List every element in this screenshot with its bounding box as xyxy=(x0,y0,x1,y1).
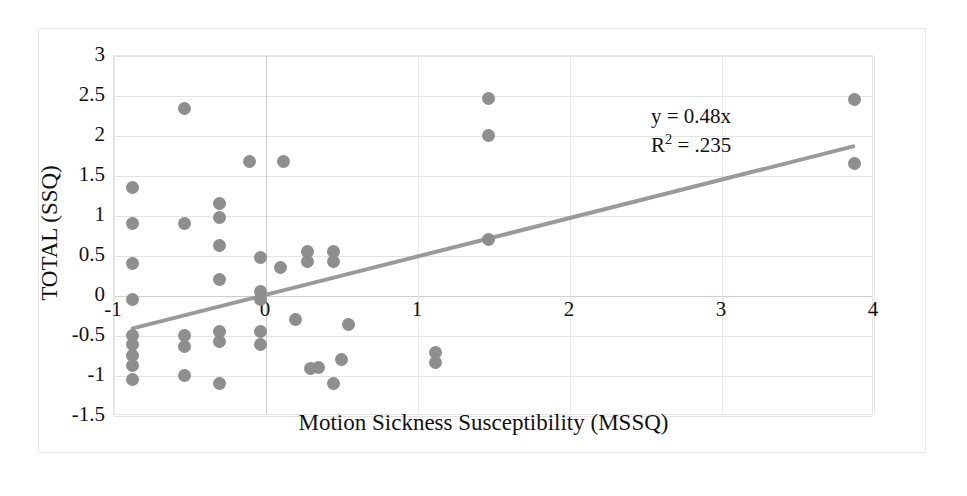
data-point xyxy=(327,255,340,268)
y-axis-tick-label: -0.5 xyxy=(1,324,105,345)
x-axis-tick-label: -1 xyxy=(73,299,153,320)
data-point xyxy=(848,93,861,106)
data-point xyxy=(482,92,495,105)
gridline-horizontal xyxy=(114,336,872,337)
y-axis-tick-label: 2 xyxy=(1,124,105,145)
data-point xyxy=(126,293,139,306)
x-axis-tick-label: 3 xyxy=(681,299,761,320)
data-point xyxy=(254,338,267,351)
data-point xyxy=(213,197,226,210)
y-axis-tick-label: 3 xyxy=(1,44,105,65)
y-axis-tick-label: -1.5 xyxy=(1,404,105,425)
scatter-plot-figure: TOTAL (SSQ) Motion Sickness Susceptibili… xyxy=(0,0,967,496)
x-axis-title: Motion Sickness Susceptibility (MSSQ) xyxy=(0,410,967,436)
y-axis-tick-label: 1 xyxy=(1,204,105,225)
x-axis-tick-label: 4 xyxy=(833,299,913,320)
y-axis-title: TOTAL (SSQ) xyxy=(37,123,63,343)
gridline-horizontal xyxy=(114,216,872,217)
y-axis-tick-label: -1 xyxy=(1,364,105,385)
regression-annotation: y = 0.48x R2 = .235 xyxy=(651,103,731,159)
data-point xyxy=(126,217,139,230)
data-point xyxy=(301,255,314,268)
data-point xyxy=(213,239,226,252)
y-axis-tick-label: 1.5 xyxy=(1,164,105,185)
gridline-horizontal xyxy=(114,376,872,377)
data-point xyxy=(254,251,267,264)
data-point xyxy=(126,373,139,386)
data-point xyxy=(213,273,226,286)
gridline-horizontal xyxy=(114,256,872,257)
data-point xyxy=(178,102,191,115)
r-squared-symbol: R xyxy=(651,133,665,157)
data-point xyxy=(178,369,191,382)
data-point xyxy=(482,233,495,246)
gridline-horizontal xyxy=(114,296,872,297)
y-axis-tick-label: 2.5 xyxy=(1,84,105,105)
gridline-horizontal xyxy=(114,176,872,177)
data-point xyxy=(327,377,340,390)
x-axis-tick-label: 2 xyxy=(529,299,609,320)
gridline-vertical xyxy=(114,56,115,414)
gridline-vertical xyxy=(418,56,419,414)
data-point xyxy=(126,257,139,270)
regression-equation: y = 0.48x xyxy=(651,103,731,130)
x-axis-tick-label: 1 xyxy=(377,299,457,320)
data-point xyxy=(213,377,226,390)
data-point xyxy=(277,155,290,168)
y-axis-tick-label: 0.5 xyxy=(1,244,105,265)
gridline-vertical xyxy=(570,56,571,414)
data-point xyxy=(213,335,226,348)
data-point xyxy=(178,217,191,230)
data-point xyxy=(254,325,267,338)
r-squared: R2 = .235 xyxy=(651,130,731,159)
data-point xyxy=(482,129,495,142)
data-point xyxy=(289,313,302,326)
gridline-horizontal xyxy=(114,56,872,57)
gridline-vertical xyxy=(266,56,267,414)
data-point xyxy=(126,181,139,194)
data-point xyxy=(848,157,861,170)
gridline-vertical xyxy=(874,56,875,414)
data-point xyxy=(178,340,191,353)
data-point xyxy=(274,261,287,274)
data-point xyxy=(213,211,226,224)
data-point xyxy=(335,353,348,366)
data-point xyxy=(429,356,442,369)
r-squared-value: = .235 xyxy=(672,133,731,157)
